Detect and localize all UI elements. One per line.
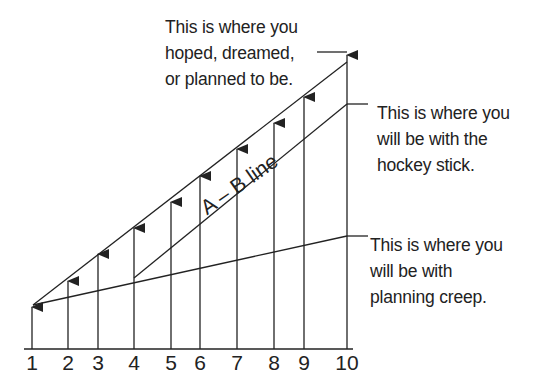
annotation-creep-line-2: will be with	[370, 258, 503, 284]
annotation-hockey-stick: This is where you will be with the hocke…	[377, 100, 510, 178]
annotation-planning-creep: This is where you will be with planning …	[370, 232, 503, 310]
tick-label-9: 9	[298, 350, 310, 376]
tick-label-1: 1	[26, 350, 38, 376]
annotation-planned-line-3: or planned to be.	[165, 66, 298, 92]
annotation-planned-line-1: This is where you	[165, 14, 298, 40]
tick-label-4: 4	[128, 350, 140, 376]
annotation-planned-line-2: hoped, dreamed,	[165, 40, 298, 66]
annotation-planned: This is where you hoped, dreamed, or pla…	[165, 14, 298, 92]
annotation-creep-line-1: This is where you	[370, 232, 503, 258]
planned-line	[33, 62, 347, 305]
annotation-hockey-line-2: will be with the	[377, 126, 510, 152]
annotation-hockey-line-1: This is where you	[377, 100, 510, 126]
tick-label-2: 2	[62, 350, 74, 376]
tick-label-7: 7	[231, 350, 243, 376]
planning-creep-line	[33, 236, 347, 305]
tick-label-8: 8	[268, 350, 280, 376]
tick-label-5: 5	[165, 350, 177, 376]
annotation-hockey-line-3: hockey stick.	[377, 152, 510, 178]
tick-label-6: 6	[194, 350, 206, 376]
tick-label-3: 3	[92, 350, 104, 376]
tick-label-10: 10	[335, 350, 358, 376]
annotation-creep-line-3: planning creep.	[370, 284, 503, 310]
